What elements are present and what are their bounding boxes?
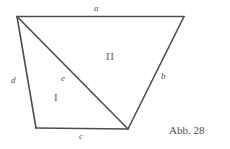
edge-label-a: a	[94, 4, 99, 13]
edge-label-e: e	[61, 74, 65, 83]
edge-c-line	[36, 128, 128, 129]
edge-label-c: c	[79, 132, 83, 141]
figure-caption: Abb. 28	[169, 125, 204, 136]
edge-label-d: d	[11, 76, 16, 85]
edge-b-line	[128, 17, 184, 130]
region-label-2: II	[106, 51, 114, 62]
region-label-1: I	[54, 92, 58, 103]
edge-label-b: b	[161, 72, 166, 81]
figure-abb-28: a b c d e I II Abb. 28	[0, 0, 230, 149]
